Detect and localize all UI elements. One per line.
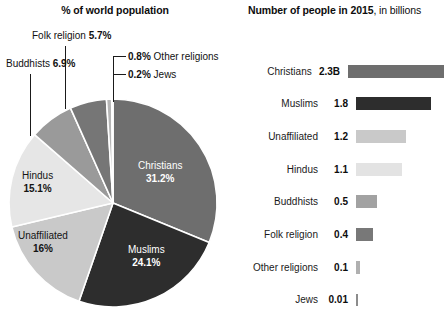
callout-folk-religion-value: 5.7% <box>89 30 112 41</box>
callout-jews-value: 0.2% <box>128 69 151 80</box>
bar-track-jews <box>356 293 358 306</box>
callout-buddhists: Buddhists 6.9% <box>6 58 76 69</box>
callout-buddhists-name: Buddhists <box>6 58 50 69</box>
bar-value-unaffiliated: 1.2 <box>324 131 348 142</box>
leader-line-jews <box>113 74 126 75</box>
bar-fill-other-religions <box>356 261 360 274</box>
bar-row-christians: Christians2.3B <box>230 63 444 79</box>
pie-slice-label-unaffiliated: Unaffiliated 16% <box>18 230 68 255</box>
pie-chart-panel: % of world population Folk religion 5.7%… <box>0 0 230 326</box>
callout-folk-religion: Folk religion 5.7% <box>32 30 112 41</box>
pie-slice-label-muslims-name: Muslims <box>128 244 165 257</box>
pie-slice-label-christians-value: 31.2% <box>138 173 182 186</box>
bar-label-unaffiliated: Unaffiliated <box>230 131 318 142</box>
callout-jews: 0.2% Jews <box>128 69 176 80</box>
bar-track-unaffiliated <box>356 130 406 143</box>
bar-track-other-religions <box>356 261 360 274</box>
bar-label-buddhists: Buddhists <box>230 196 318 207</box>
pie-slice-label-muslims-value: 24.1% <box>128 257 165 270</box>
callout-other-religions-value: 0.8% <box>128 51 151 62</box>
bar-chart-title-bold: Number of people in 2015 <box>248 4 373 16</box>
bar-value-jews: 0.01 <box>324 294 348 305</box>
pie-slice-label-christians: Christians 31.2% <box>138 160 182 185</box>
bar-fill-buddhists <box>356 195 377 208</box>
callout-folk-religion-name: Folk religion <box>32 30 86 41</box>
pie-slice-label-muslims: Muslims 24.1% <box>128 244 165 269</box>
pie-chart-graphic <box>0 0 230 326</box>
bar-row-other-religions: Other religions0.1 <box>230 259 444 275</box>
pie-slice-label-hindus: Hindus 15.1% <box>22 170 53 195</box>
bar-label-hindus: Hindus <box>230 164 318 175</box>
pie-slice-label-unaffiliated-value: 16% <box>18 243 68 256</box>
bar-track-muslims <box>356 97 431 110</box>
bar-track-buddhists <box>356 195 377 208</box>
bar-track-hindus <box>356 163 402 176</box>
bar-value-hindus: 1.1 <box>324 164 348 175</box>
leader-line-bracket-vertical <box>113 56 114 102</box>
bar-row-jews: Jews0.01 <box>230 292 444 308</box>
callout-other-religions: 0.8% Other religions <box>128 51 219 62</box>
callout-jews-name: Jews <box>154 69 177 80</box>
bar-value-buddhists: 0.5 <box>324 196 348 207</box>
bar-track-christians <box>348 65 444 78</box>
bar-label-folk-religion: Folk religion <box>230 229 318 240</box>
callout-buddhists-value: 6.9% <box>53 58 76 69</box>
leader-line-folk <box>65 46 66 109</box>
bar-fill-muslims <box>356 97 431 110</box>
bar-fill-hindus <box>356 163 402 176</box>
bar-row-buddhists: Buddhists0.5 <box>230 194 444 210</box>
bar-fill-christians <box>348 65 444 78</box>
bar-fill-folk-religion <box>356 228 373 241</box>
bar-chart-panel: Number of people in 2015, in billions Ch… <box>230 0 444 326</box>
bar-label-muslims: Muslims <box>230 98 318 109</box>
pie-slice-label-hindus-name: Hindus <box>22 170 53 183</box>
bar-value-muslims: 1.8 <box>324 98 348 109</box>
bar-row-hindus: Hindus1.1 <box>230 161 444 177</box>
bar-chart-title: Number of people in 2015, in billions <box>248 4 421 16</box>
bar-track-folk-religion <box>356 228 373 241</box>
leader-line-other-religions <box>113 56 126 57</box>
bar-row-muslims: Muslims1.8 <box>230 96 444 112</box>
bar-value-christians: 2.3B <box>318 66 340 77</box>
bar-label-christians: Christians <box>230 66 312 77</box>
leader-line-buddhists <box>30 74 31 136</box>
pie-slice-label-christians-name: Christians <box>138 160 182 173</box>
pie-slice-label-unaffiliated-name: Unaffiliated <box>18 230 68 243</box>
bar-value-other-religions: 0.1 <box>324 262 348 273</box>
bar-label-jews: Jews <box>230 294 318 305</box>
pie-slice-label-hindus-value: 15.1% <box>22 183 53 196</box>
bar-fill-jews <box>356 294 358 306</box>
bar-fill-unaffiliated <box>356 130 406 143</box>
callout-other-religions-name: Other religions <box>154 51 219 62</box>
bar-value-folk-religion: 0.4 <box>324 229 348 240</box>
bar-row-unaffiliated: Unaffiliated1.2 <box>230 128 444 144</box>
bar-chart-title-subtitle: , in billions <box>373 4 421 16</box>
bar-row-folk-religion: Folk religion0.4 <box>230 227 444 243</box>
bar-label-other-religions: Other religions <box>230 262 318 273</box>
